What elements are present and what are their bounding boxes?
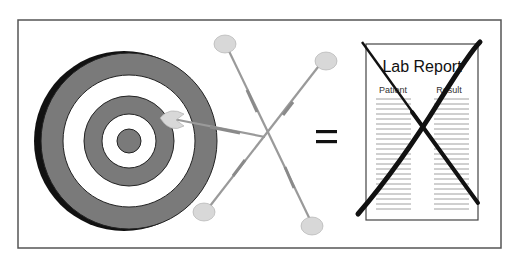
illustration: Lab Report Patient Result	[0, 0, 519, 265]
target	[34, 51, 217, 231]
lab-report-title: Lab Report	[382, 58, 462, 75]
